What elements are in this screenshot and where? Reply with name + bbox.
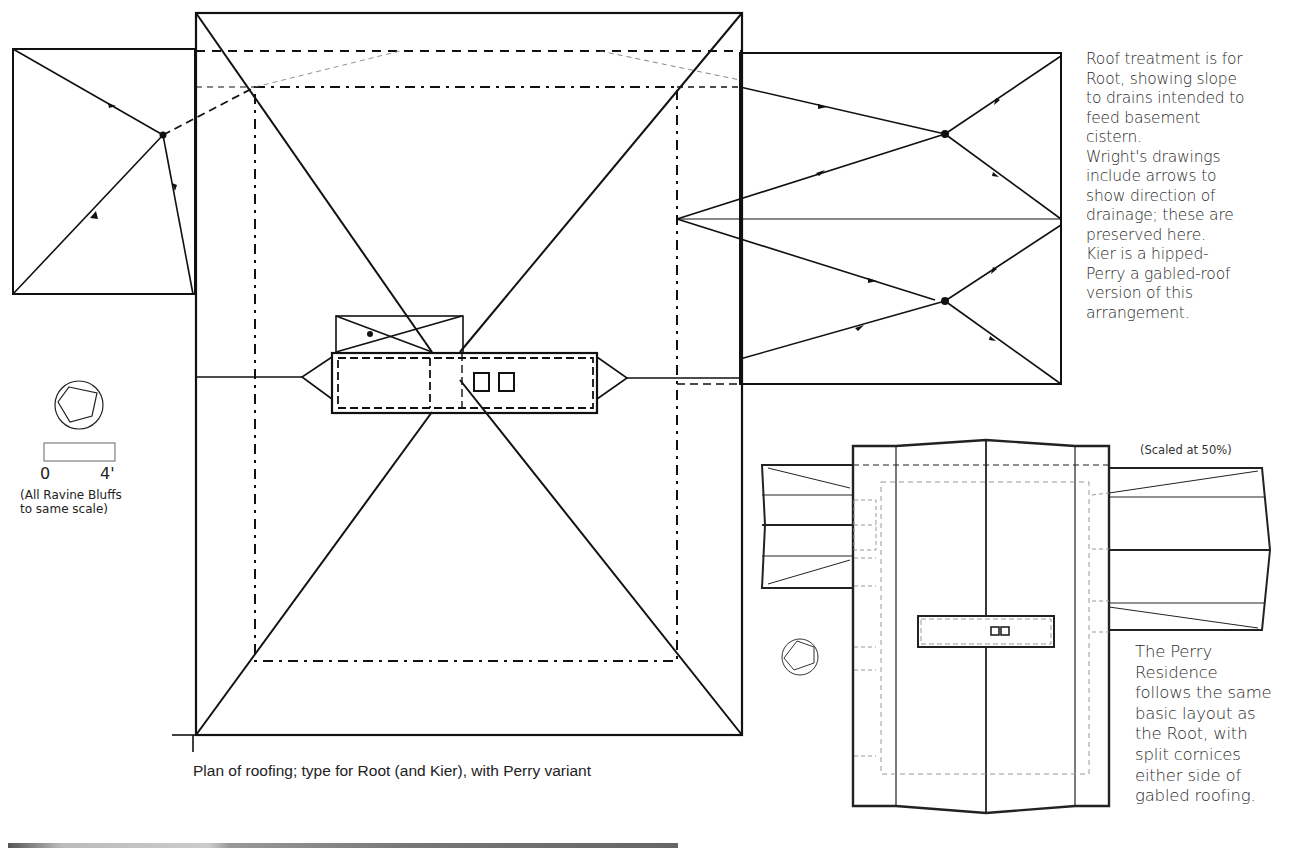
scale-note: (All Ravine Bluffs to same scale) — [20, 488, 122, 516]
photo-edge-strip — [8, 843, 678, 848]
left-wing-roof — [13, 49, 195, 294]
chimney-block — [196, 316, 677, 413]
figure-caption: Plan of roofing; type for Root (and Kier… — [193, 762, 591, 780]
root-roof-note: Roof treatment is for Root, showing slop… — [1086, 50, 1244, 323]
main-roof-outline — [196, 13, 742, 735]
flue-icon — [1001, 627, 1009, 635]
perry-residence-note: The Perry Residence follows the same bas… — [1135, 642, 1272, 807]
scale-end-label: 4' — [100, 464, 115, 483]
scale-bar — [44, 443, 115, 461]
north-compass-icon — [55, 381, 103, 429]
flue-icon — [474, 373, 489, 391]
scale-start-label: 0 — [40, 464, 50, 483]
north-compass-icon-small — [782, 639, 818, 675]
flue-icon — [991, 627, 999, 635]
root-roof-plan — [13, 13, 1061, 752]
perry-scale-label: (Scaled at 50%) — [1140, 443, 1232, 457]
flue-icon — [499, 373, 514, 391]
